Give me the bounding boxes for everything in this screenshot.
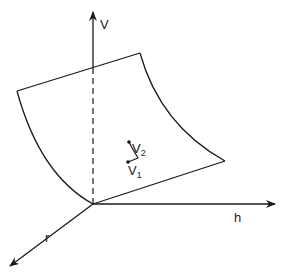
depth-axis-label: r (45, 230, 50, 245)
3d-surface-diagram: V h r V2 V (0, 0, 281, 278)
depth-axis (10, 204, 93, 266)
end-state-label: V2 (132, 141, 146, 158)
start-state-label: V1 (128, 163, 142, 180)
vertical-axis-label: V (100, 17, 109, 32)
surface-patch (17, 53, 225, 204)
horizontal-axis-label: h (234, 210, 241, 225)
